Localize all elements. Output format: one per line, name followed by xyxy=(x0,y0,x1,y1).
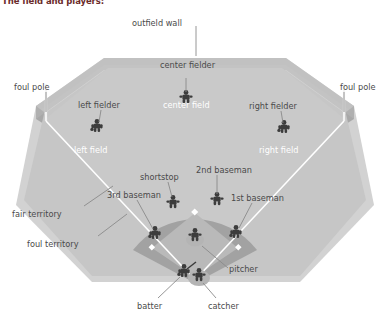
zone-left-field: left field xyxy=(74,146,108,154)
label-foul-territory: foul territory xyxy=(27,240,79,248)
label-outfield-wall: outfield wall xyxy=(132,19,182,27)
baseball-field-graphic xyxy=(0,0,390,323)
label-pitcher: pitcher xyxy=(229,265,258,273)
label-center-fielder: center fielder xyxy=(160,61,215,69)
label-foul-pole-right: foul pole xyxy=(340,83,375,91)
diagram-canvas: The field and players: xyxy=(0,0,390,323)
label-catcher: catcher xyxy=(208,302,239,310)
label-right-fielder: right fielder xyxy=(249,102,297,110)
label-batter: batter xyxy=(137,302,162,310)
label-first-baseman: 1st baseman xyxy=(231,194,284,202)
zone-center-field: center field xyxy=(163,101,210,109)
label-left-fielder: left fielder xyxy=(78,101,120,109)
leader-catcher xyxy=(203,283,216,298)
zone-right-field: right field xyxy=(259,146,299,154)
label-third-baseman: 3rd baseman xyxy=(107,191,161,199)
label-fair-territory: fair territory xyxy=(12,210,62,218)
label-second-baseman: 2nd baseman xyxy=(196,166,252,174)
label-foul-pole-left: foul pole xyxy=(14,83,49,91)
label-shortstop: shortstop xyxy=(140,173,179,181)
